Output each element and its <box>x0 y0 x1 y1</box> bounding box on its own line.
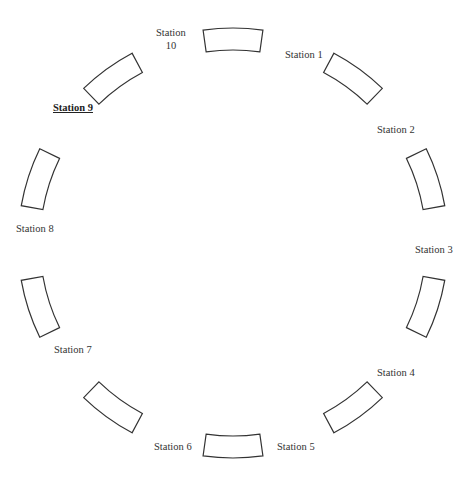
station-label-number: 10 <box>156 39 186 52</box>
station-label-text: Station <box>156 26 186 39</box>
station-6-label: Station 6 <box>154 440 192 453</box>
station-5-segment <box>203 434 263 458</box>
station-9-label: Station 9 <box>53 101 93 114</box>
station-7-segment <box>21 277 59 338</box>
station-10-segment <box>203 28 263 52</box>
station-ring-diagram <box>0 0 467 479</box>
station-10-label: Station10 <box>156 26 186 52</box>
station-label-text: Station 3 <box>415 243 453 256</box>
station-5-label: Station 5 <box>277 440 315 453</box>
station-3-segment <box>406 277 444 338</box>
station-8-label: Station 8 <box>16 222 54 235</box>
station-label-text: Station 9 <box>53 101 93 114</box>
station-4-label: Station 4 <box>377 366 415 379</box>
station-4-segment <box>324 382 383 433</box>
station-3-label: Station 3 <box>415 243 453 256</box>
station-label-text: Station 8 <box>16 222 54 235</box>
station-9-segment <box>84 53 143 104</box>
station-2-segment <box>406 149 444 210</box>
station-7-label: Station 7 <box>54 343 92 356</box>
station-1-segment <box>324 53 383 104</box>
station-1-label: Station 1 <box>285 48 323 61</box>
station-label-text: Station 6 <box>154 440 192 453</box>
station-label-text: Station 4 <box>377 366 415 379</box>
station-6-segment <box>84 382 143 433</box>
station-label-text: Station 5 <box>277 440 315 453</box>
station-label-text: Station 1 <box>285 48 323 61</box>
station-label-text: Station 2 <box>377 123 415 136</box>
station-label-text: Station 7 <box>54 343 92 356</box>
station-2-label: Station 2 <box>377 123 415 136</box>
station-8-segment <box>21 149 59 210</box>
